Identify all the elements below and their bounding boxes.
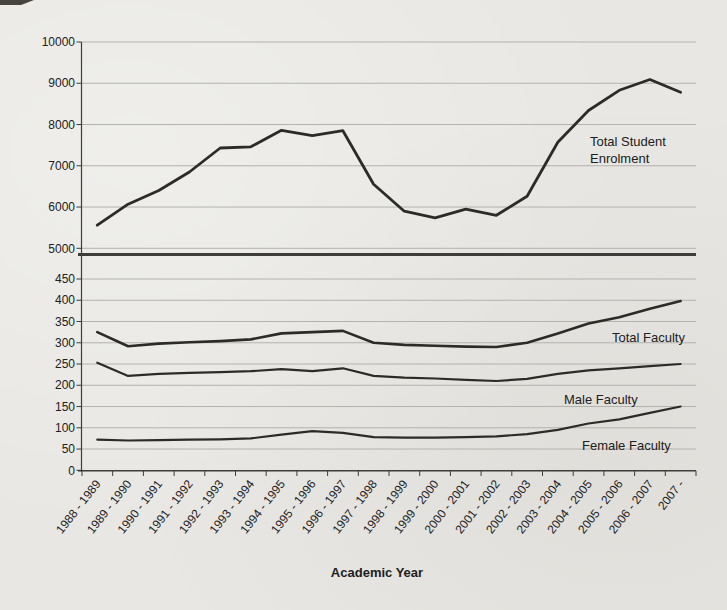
x-axis-title: Academic Year xyxy=(331,565,423,580)
enrolment-and-faculty-chart: 1000090008000700060005000450400350300250… xyxy=(0,0,727,610)
y-tick-label: 250 xyxy=(55,357,75,371)
panel1-y-tick-labels: 1000090008000700060005000 xyxy=(42,35,76,255)
panel1-y-ticks xyxy=(77,42,82,248)
y-tick-label: 450 xyxy=(55,272,75,286)
y-tick-label: 100 xyxy=(55,421,75,435)
panel2-gridlines xyxy=(82,279,696,449)
y-tick-label: 200 xyxy=(55,378,75,392)
y-tick-label: 7000 xyxy=(48,159,75,173)
x-axis-labels: 1988 - 19891989 - 19901990 - 19911991 - … xyxy=(53,477,687,536)
page-background: 1000090008000700060005000450400350300250… xyxy=(0,0,727,610)
total-faculty-line xyxy=(97,301,680,347)
y-tick-label: 300 xyxy=(55,336,75,350)
panel2-y-tick-labels: 450400350300250200150100500 xyxy=(55,272,75,477)
male-faculty-label: Male Faculty xyxy=(564,392,638,407)
y-tick-label: 8000 xyxy=(48,118,75,132)
male-faculty-line xyxy=(97,363,680,381)
panel2-y-ticks xyxy=(77,279,82,470)
female-faculty-line xyxy=(97,407,680,441)
y-tick-label: 150 xyxy=(55,400,75,414)
y-tick-label: 9000 xyxy=(48,76,75,90)
y-tick-label: 350 xyxy=(55,315,75,329)
y-tick-label: 6000 xyxy=(48,200,75,214)
svg-text:Total Student: Total Student xyxy=(590,134,666,149)
female-faculty-label: Female Faculty xyxy=(582,438,671,453)
x-axis-ticks xyxy=(82,471,696,476)
y-tick-label: 5000 xyxy=(48,242,75,256)
total-faculty-label: Total Faculty xyxy=(612,330,685,345)
svg-text:Enrolment: Enrolment xyxy=(590,151,650,166)
y-tick-label: 50 xyxy=(62,442,76,456)
y-tick-label: 400 xyxy=(55,293,75,307)
x-tick-label: 2007 - xyxy=(655,477,687,512)
y-tick-label: 10000 xyxy=(42,35,76,49)
total-student-enrolment-label: Total StudentEnrolment xyxy=(590,134,666,166)
scanned-book-page: { "page": { "type": "scanned-figure", "b… xyxy=(0,0,727,610)
y-tick-label: 0 xyxy=(68,464,75,478)
